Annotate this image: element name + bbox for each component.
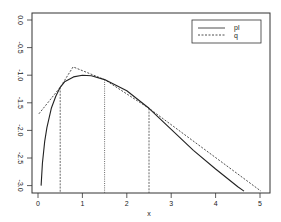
chart-canvas: 0.0-0.5-1.0-1.5-2.0-2.5-3.0 012345 x pl …: [0, 0, 281, 222]
legend-box: [192, 20, 261, 43]
x-tick-label: 4: [214, 200, 218, 207]
y-tick-label: -1.0: [17, 69, 24, 81]
y-axis: 0.0-0.5-1.0-1.5-2.0-2.5-3.0: [17, 15, 32, 192]
y-tick-label: 0.0: [17, 15, 24, 25]
x-tick-label: 1: [80, 200, 84, 207]
series-lines: [39, 67, 261, 191]
y-tick-label: -3.0: [17, 180, 24, 192]
x-tick-label: 2: [125, 200, 129, 207]
y-tick-label: -2.5: [17, 152, 24, 164]
vertical-guide-lines: [60, 80, 149, 193]
y-tick-label: -1.5: [17, 97, 24, 109]
y-tick-label: -0.5: [17, 42, 24, 54]
x-tick-label: 3: [169, 200, 173, 207]
x-axis-title: x: [147, 210, 151, 217]
series-pl-line: [41, 75, 244, 191]
legend-label-pl: pl: [234, 24, 240, 32]
legend: pl q: [192, 20, 261, 43]
x-tick-label: 0: [36, 200, 40, 207]
legend-label-q: q: [234, 32, 238, 40]
x-axis: 012345: [36, 193, 262, 207]
x-tick-label: 5: [258, 200, 262, 207]
y-tick-label: -2.0: [17, 124, 24, 136]
series-q-line: [39, 67, 261, 191]
